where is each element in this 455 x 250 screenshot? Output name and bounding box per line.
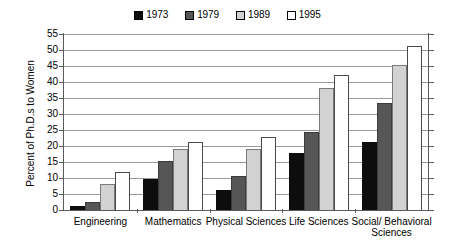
bar bbox=[143, 179, 158, 210]
bar bbox=[289, 153, 304, 210]
x-axis-tick-mark bbox=[210, 209, 211, 213]
bar bbox=[216, 190, 231, 210]
x-axis-tick-mark bbox=[355, 209, 356, 213]
plot-area bbox=[64, 34, 428, 210]
bar bbox=[334, 75, 349, 210]
bar-chart: 1973197919891995 Percent of Ph.D.s to Wo… bbox=[0, 0, 455, 250]
bar-group bbox=[210, 34, 283, 210]
legend-swatch-icon bbox=[185, 11, 194, 20]
bar bbox=[115, 172, 130, 210]
bar-group bbox=[137, 34, 210, 210]
secondary-y-axis-tick-mark bbox=[429, 178, 434, 179]
bar bbox=[231, 176, 246, 210]
y-axis-tick-label: 5 bbox=[36, 189, 58, 199]
secondary-y-axis-tick-mark bbox=[429, 130, 434, 131]
y-axis-tick-label: 40 bbox=[36, 77, 58, 87]
x-axis-tick-mark bbox=[137, 209, 138, 213]
secondary-y-axis-tick-mark bbox=[429, 146, 434, 147]
y-axis-tick-label: 55 bbox=[36, 29, 58, 39]
y-axis-tick-label: 45 bbox=[36, 61, 58, 71]
y-axis-tick-label: 10 bbox=[36, 173, 58, 183]
y-axis-tick-label: 30 bbox=[36, 109, 58, 119]
bar bbox=[158, 161, 173, 210]
legend-entry: 1995 bbox=[287, 10, 321, 20]
legend-entry: 1973 bbox=[134, 10, 168, 20]
bar bbox=[319, 88, 334, 210]
secondary-y-axis-line bbox=[428, 33, 429, 211]
y-axis-tick-label: 35 bbox=[36, 93, 58, 103]
bar bbox=[100, 184, 115, 210]
y-axis-tick-label: 15 bbox=[36, 157, 58, 167]
legend-label: 1995 bbox=[299, 10, 321, 20]
secondary-y-axis-tick-mark bbox=[429, 82, 434, 83]
legend-swatch-icon bbox=[236, 11, 245, 20]
y-axis-tick-label: 50 bbox=[36, 45, 58, 55]
x-axis-tick-mark bbox=[282, 209, 283, 213]
bar bbox=[377, 103, 392, 210]
secondary-y-axis-tick-mark bbox=[429, 34, 434, 35]
secondary-y-axis-tick-mark bbox=[429, 98, 434, 99]
bar bbox=[362, 142, 377, 210]
chart-legend: 1973197919891995 bbox=[0, 7, 455, 23]
y-axis-tick-label: 0 bbox=[36, 205, 58, 215]
secondary-y-axis-tick-mark bbox=[429, 50, 434, 51]
bar bbox=[392, 65, 407, 210]
bar bbox=[173, 149, 188, 210]
legend-label: 1989 bbox=[248, 10, 270, 20]
bar bbox=[85, 202, 100, 210]
bar bbox=[261, 137, 276, 210]
y-axis-tick-label: 25 bbox=[36, 125, 58, 135]
legend-entry: 1989 bbox=[236, 10, 270, 20]
bar bbox=[304, 132, 319, 210]
secondary-y-axis-tick-mark bbox=[429, 194, 434, 195]
legend-label: 1973 bbox=[146, 10, 168, 20]
bar-group bbox=[282, 34, 355, 210]
legend-swatch-icon bbox=[287, 11, 296, 20]
legend-swatch-icon bbox=[134, 11, 143, 20]
x-axis-baseline bbox=[64, 210, 428, 211]
y-axis-tick-label: 20 bbox=[36, 141, 58, 151]
bar bbox=[188, 142, 203, 210]
bar-group bbox=[64, 34, 137, 210]
bar-group bbox=[355, 34, 428, 210]
bar bbox=[407, 46, 422, 210]
bar bbox=[70, 206, 85, 210]
bar bbox=[246, 149, 261, 210]
y-axis-title: Percent of Ph.D.s to Women bbox=[25, 34, 36, 214]
legend-label: 1979 bbox=[197, 10, 219, 20]
x-axis-tick-label: Social/ Behavioral Sciences bbox=[343, 216, 440, 238]
legend-entry: 1979 bbox=[185, 10, 219, 20]
secondary-y-axis-tick-mark bbox=[429, 66, 434, 67]
secondary-y-axis-tick-mark bbox=[429, 210, 434, 211]
secondary-y-axis-tick-mark bbox=[429, 162, 434, 163]
secondary-y-axis-tick-mark bbox=[429, 114, 434, 115]
